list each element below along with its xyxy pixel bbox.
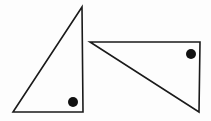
right-angle-dot-icon	[68, 97, 78, 107]
left-triangle-shape	[13, 7, 83, 112]
right-triangle-shape	[90, 42, 200, 112]
right-angle-dot-icon	[186, 49, 196, 59]
diagram-canvas	[0, 0, 211, 121]
right-triangle-group	[90, 42, 200, 112]
triangles-diagram	[0, 0, 211, 121]
left-triangle-group	[13, 7, 83, 112]
